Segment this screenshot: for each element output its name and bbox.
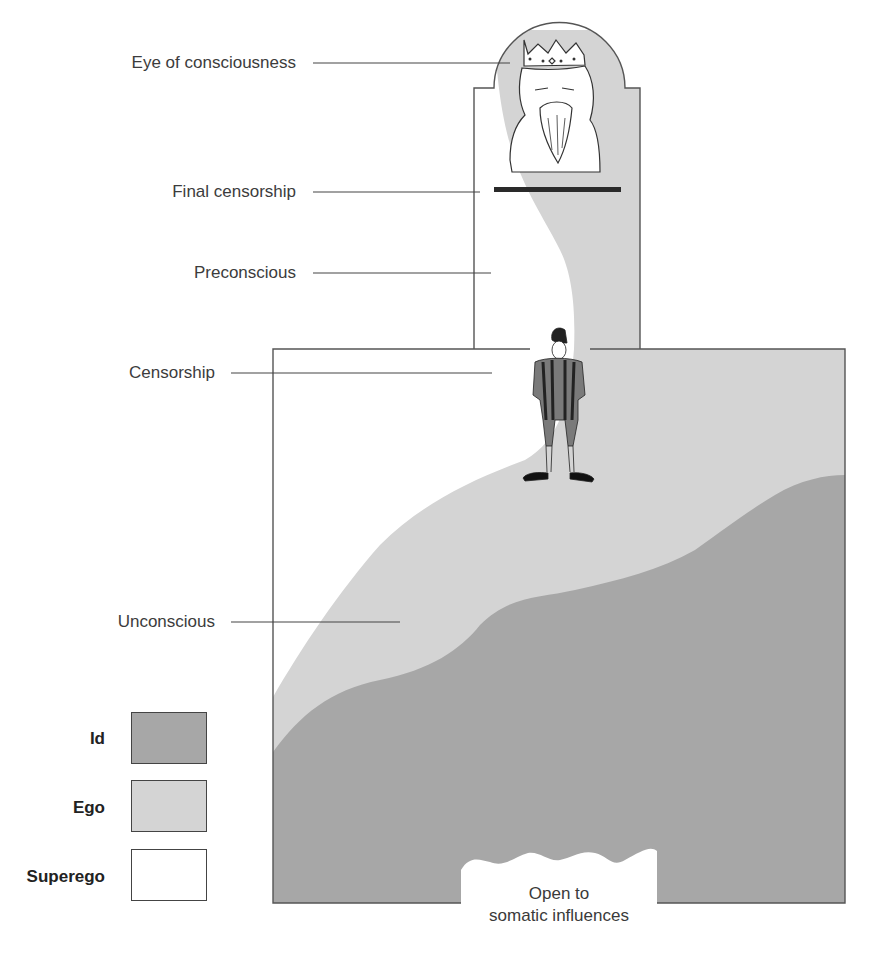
legend-label-ego: Ego xyxy=(73,798,105,818)
legend-label-superego: Superego xyxy=(27,867,105,887)
label-final-censorship: Final censorship xyxy=(172,182,296,202)
somatic-line-1: Open to xyxy=(461,883,657,905)
label-unconscious: Unconscious xyxy=(118,612,215,632)
final-censorship-bar xyxy=(494,187,621,192)
legend-swatch-id xyxy=(131,712,207,764)
label-eye-of-consciousness: Eye of consciousness xyxy=(132,53,296,73)
legend-label-id: Id xyxy=(90,729,105,749)
legend-swatch-superego xyxy=(131,849,207,901)
label-censorship: Censorship xyxy=(129,363,215,383)
label-preconscious: Preconscious xyxy=(194,263,296,283)
legend-swatch-ego xyxy=(131,780,207,832)
somatic-line-2: somatic influences xyxy=(461,905,657,927)
somatic-influences-label: Open to somatic influences xyxy=(461,883,657,927)
